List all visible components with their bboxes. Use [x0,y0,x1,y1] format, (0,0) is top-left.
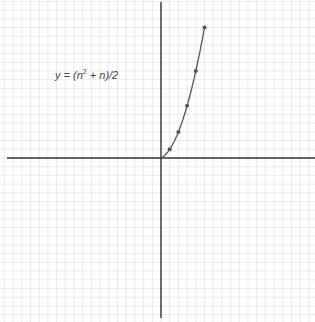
data-point [194,69,198,73]
curve [161,28,205,159]
data-point [176,130,180,134]
data-point [185,104,189,108]
chart-canvas: y = (n2 + n)/2 [0,0,315,322]
equation-prefix: y = (n [55,69,83,81]
data-point [203,26,207,30]
equation-label: y = (n2 + n)/2 [55,68,118,81]
plot-area [0,0,315,322]
data-point [168,147,172,151]
equation-suffix: + n)/2 [87,69,119,81]
